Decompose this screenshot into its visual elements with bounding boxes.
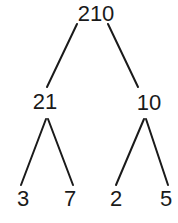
leaf-node-7: 7 bbox=[64, 188, 76, 210]
edge-21-7 bbox=[48, 119, 73, 185]
node-10: 10 bbox=[137, 92, 161, 114]
root-node: 210 bbox=[78, 3, 115, 25]
leaf-node-3: 3 bbox=[17, 188, 29, 210]
edge-210-21 bbox=[47, 24, 77, 87]
leaf-node-2: 2 bbox=[110, 188, 122, 210]
edge-210-10 bbox=[108, 24, 138, 87]
edge-10-2 bbox=[116, 119, 144, 185]
edge-10-5 bbox=[146, 119, 168, 185]
node-21: 21 bbox=[33, 91, 57, 113]
edge-21-3 bbox=[21, 119, 46, 185]
leaf-node-5: 5 bbox=[160, 188, 172, 210]
